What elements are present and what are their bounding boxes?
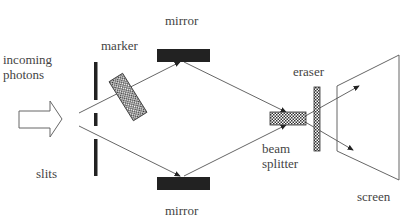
eraser bbox=[314, 87, 320, 151]
label-photons: photons bbox=[3, 67, 44, 82]
detection-screen bbox=[337, 55, 399, 180]
quantum-eraser-diagram: incoming photons slits marker mirror mir… bbox=[0, 0, 417, 223]
label-incoming: incoming bbox=[3, 52, 53, 67]
label-beam: beam bbox=[262, 141, 290, 156]
beam-splitter bbox=[270, 112, 306, 125]
mirror-top bbox=[157, 49, 210, 62]
label-mirror-bottom: mirror bbox=[165, 203, 199, 218]
label-eraser: eraser bbox=[293, 64, 325, 79]
incoming-photons-arrow-icon bbox=[19, 101, 62, 137]
label-marker: marker bbox=[101, 38, 138, 53]
double-slit bbox=[94, 62, 98, 176]
label-mirror-top: mirror bbox=[165, 13, 199, 28]
label-slits: slits bbox=[36, 166, 57, 181]
mirror-bottom bbox=[157, 177, 210, 190]
label-splitter: splitter bbox=[262, 156, 299, 171]
marker-polarizer bbox=[109, 73, 147, 120]
label-screen: screen bbox=[357, 189, 391, 204]
